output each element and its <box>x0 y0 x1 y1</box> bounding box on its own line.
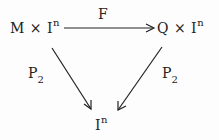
label-p2-right: P2 <box>162 65 178 85</box>
node-in: In <box>95 114 108 133</box>
label-f: F <box>98 6 108 22</box>
label-p2-left: P2 <box>28 65 44 85</box>
label-sub: 2 <box>37 74 43 85</box>
commutative-diagram: M × In Q × In In F P2 P2 <box>0 0 219 140</box>
node-base: Q × I <box>157 20 197 36</box>
node-base: M × I <box>10 20 53 36</box>
node-sup: n <box>101 114 108 125</box>
arrow-left-p2 <box>52 48 91 109</box>
arrow-right-p2 <box>118 47 162 110</box>
node-sup: n <box>53 17 60 28</box>
label-sub: 2 <box>171 74 177 85</box>
label-base: P <box>28 65 37 81</box>
node-m-times-in: M × In <box>10 17 60 36</box>
label-base: P <box>162 65 171 81</box>
node-q-times-in: Q × In <box>157 17 204 36</box>
node-sup: n <box>197 17 204 28</box>
